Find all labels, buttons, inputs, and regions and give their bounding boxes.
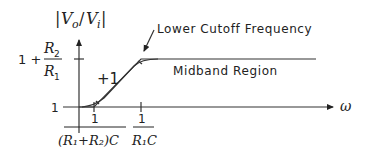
- x-tick-upper-label: 1 R₁C: [131, 112, 157, 148]
- svg-text:i: i: [97, 18, 101, 31]
- svg-text:|: |: [101, 9, 106, 28]
- svg-text:|: |: [55, 9, 60, 28]
- svg-text:(R₁+R₂)C: (R₁+R₂)C: [58, 133, 119, 148]
- svg-text:R₁C: R₁C: [131, 133, 157, 148]
- cutoff-label: Lower Cutoff Frequency: [157, 22, 312, 36]
- svg-text:/: /: [79, 9, 85, 28]
- bode-diagram: | V o / V i | 1 + R 2 R 1 1 +1 1 (R₁+R₂)…: [0, 0, 370, 160]
- y-axis-label: | V o / V i |: [55, 9, 106, 31]
- x-axis-label: ω: [340, 98, 352, 114]
- slope-label: +1: [97, 70, 119, 88]
- cutoff-pointer-arrow: [144, 30, 154, 51]
- svg-text:1: 1: [54, 72, 60, 82]
- x-tick-lower-label: 1 (R₁+R₂)C: [58, 112, 126, 148]
- svg-text:1: 1: [138, 112, 146, 126]
- response-curve: [82, 59, 158, 107]
- svg-text:2: 2: [54, 49, 60, 59]
- svg-text:1 +: 1 +: [18, 52, 41, 67]
- midband-label: Midband Region: [173, 64, 278, 78]
- svg-text:1: 1: [91, 112, 99, 126]
- y-tick-low-label: 1: [51, 101, 59, 115]
- y-tick-high-label: 1 + R 2 R 1: [18, 40, 62, 82]
- svg-text:o: o: [72, 18, 79, 31]
